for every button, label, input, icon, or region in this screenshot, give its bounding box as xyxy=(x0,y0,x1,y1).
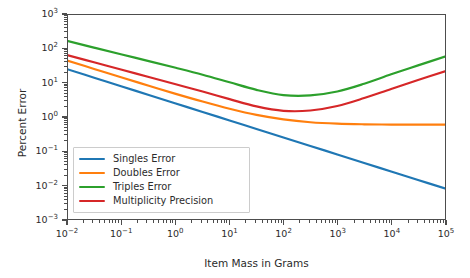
series-line xyxy=(68,55,445,111)
figure-canvas: Percent Error 10310210110010−110−210−310… xyxy=(0,0,470,278)
x-minor-tick xyxy=(217,220,218,223)
x-tick-mark xyxy=(445,220,446,225)
x-minor-tick xyxy=(153,220,154,223)
x-minor-tick xyxy=(375,220,376,223)
x-minor-tick xyxy=(118,220,119,223)
legend-item[interactable]: Triples Error xyxy=(79,180,243,194)
x-minor-tick xyxy=(329,220,330,223)
x-minor-tick xyxy=(226,220,227,223)
x-tick-mark xyxy=(229,220,230,225)
x-minor-tick xyxy=(158,220,159,223)
x-minor-tick xyxy=(104,220,105,223)
y-tick-label: 10−3 xyxy=(14,215,58,225)
x-minor-tick xyxy=(433,220,434,223)
x-tick-label: 100 xyxy=(167,229,184,239)
x-tick-label: 105 xyxy=(438,229,455,239)
x-minor-tick xyxy=(325,220,326,223)
x-minor-tick xyxy=(386,220,387,223)
x-minor-tick xyxy=(170,220,171,223)
x-tick-label: 104 xyxy=(384,229,401,239)
x-minor-tick xyxy=(389,220,390,223)
x-tick-mark xyxy=(66,220,67,225)
x-tick-mark xyxy=(283,220,284,225)
legend-label: Triples Error xyxy=(113,182,171,192)
x-minor-tick xyxy=(109,220,110,223)
x-minor-tick xyxy=(213,220,214,223)
x-minor-tick xyxy=(408,220,409,223)
x-minor-tick xyxy=(163,220,164,223)
legend-color-swatch xyxy=(79,186,105,189)
legend[interactable]: Singles ErrorDoubles ErrorTriples ErrorM… xyxy=(73,147,250,213)
legend-label: Doubles Error xyxy=(113,168,180,178)
x-tick-label: 10−2 xyxy=(56,229,78,239)
legend-item[interactable]: Doubles Error xyxy=(79,166,243,180)
y-tick-label: 100 xyxy=(14,112,58,122)
x-minor-tick xyxy=(278,220,279,223)
x-minor-tick xyxy=(221,220,222,223)
x-minor-tick xyxy=(424,220,425,223)
x-minor-tick xyxy=(99,220,100,223)
x-minor-tick xyxy=(201,220,202,223)
x-minor-tick xyxy=(429,220,430,223)
legend-label: Singles Error xyxy=(113,154,175,164)
x-minor-tick xyxy=(379,220,380,223)
x-minor-tick xyxy=(146,220,147,223)
x-axis-label: Item Mass in Grams xyxy=(67,257,446,269)
y-tick-label: 10−2 xyxy=(14,181,58,191)
x-minor-tick xyxy=(443,220,444,223)
x-tick-mark xyxy=(337,220,338,225)
x-minor-tick xyxy=(166,220,167,223)
x-minor-tick xyxy=(112,220,113,223)
x-minor-tick xyxy=(191,220,192,223)
y-tick-label: 101 xyxy=(14,78,58,88)
x-tick-label: 101 xyxy=(221,229,238,239)
x-minor-tick xyxy=(137,220,138,223)
x-tick-label: 102 xyxy=(275,229,292,239)
x-minor-tick xyxy=(440,220,441,223)
legend-color-swatch xyxy=(79,172,105,175)
x-minor-tick xyxy=(417,220,418,223)
y-tick-label: 102 xyxy=(14,44,58,54)
x-minor-tick xyxy=(281,220,282,223)
legend-color-swatch xyxy=(79,158,105,161)
legend-color-swatch xyxy=(79,200,105,203)
x-tick-label: 103 xyxy=(329,229,346,239)
x-minor-tick xyxy=(115,220,116,223)
x-minor-tick xyxy=(172,220,173,223)
x-minor-tick xyxy=(309,220,310,223)
y-tick-label: 103 xyxy=(14,9,58,19)
legend-item[interactable]: Singles Error xyxy=(79,152,243,166)
x-tick-mark xyxy=(391,220,392,225)
x-minor-tick xyxy=(383,220,384,223)
x-minor-tick xyxy=(299,220,300,223)
x-minor-tick xyxy=(335,220,336,223)
x-minor-tick xyxy=(437,220,438,223)
x-minor-tick xyxy=(271,220,272,223)
x-minor-tick xyxy=(92,220,93,223)
x-minor-tick xyxy=(316,220,317,223)
legend-item[interactable]: Multiplicity Precision xyxy=(79,194,243,208)
legend-label: Multiplicity Precision xyxy=(113,196,213,206)
x-minor-tick xyxy=(321,220,322,223)
x-minor-tick xyxy=(262,220,263,223)
x-minor-tick xyxy=(370,220,371,223)
x-minor-tick xyxy=(224,220,225,223)
x-minor-tick xyxy=(332,220,333,223)
x-minor-tick xyxy=(207,220,208,223)
x-tick-mark xyxy=(175,220,176,225)
x-minor-tick xyxy=(255,220,256,223)
y-tick-label: 10−1 xyxy=(14,147,58,157)
x-minor-tick xyxy=(363,220,364,223)
x-minor-tick xyxy=(354,220,355,223)
x-tick-label: 10−1 xyxy=(110,229,132,239)
x-minor-tick xyxy=(83,220,84,223)
x-minor-tick xyxy=(275,220,276,223)
x-tick-mark xyxy=(121,220,122,225)
x-minor-tick xyxy=(245,220,246,223)
x-minor-tick xyxy=(267,220,268,223)
